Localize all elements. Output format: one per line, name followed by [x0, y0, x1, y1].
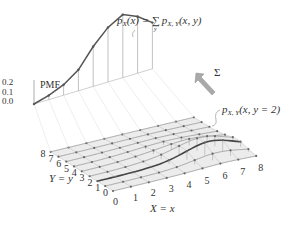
x-axis-label: X = x: [149, 202, 175, 214]
x-tick-1: 1: [133, 192, 138, 203]
sigma-label: Σ: [214, 66, 220, 78]
sum-arrow-icon: [195, 73, 215, 95]
x-tick-2: 2: [151, 187, 156, 198]
pmf-tick-0.0: 0.0: [2, 96, 14, 106]
marginal-formula: pX(x) = ∑pX, Y(x, y): [116, 14, 202, 28]
slice-formula: pX, Y(x, y = 2): [221, 103, 281, 117]
y-tick-7: 7: [48, 153, 53, 164]
x-tick-5: 5: [205, 175, 210, 186]
x-tick-6: 6: [222, 170, 227, 181]
y-tick-2: 2: [87, 177, 92, 188]
y-axis-label: Y = y: [49, 172, 73, 184]
sum-subscript: y: [153, 26, 157, 32]
x-tick-7: 7: [240, 166, 245, 177]
y-tick-1: 1: [95, 182, 100, 193]
marginal-leader-line: [132, 30, 135, 37]
pmf-axis-label: PMF: [40, 79, 60, 90]
x-tick-4: 4: [187, 179, 192, 190]
joint-pmf-surface: PMF0.20.10.0pX(x) = ∑pX, Y(x, y)yΣpX, Y(…: [0, 0, 295, 226]
x-tick-0: 0: [113, 196, 118, 207]
slice-leader-line: [212, 110, 220, 126]
pmf-tick-0.2: 0.2: [2, 77, 13, 87]
pmf-diagram: PMF0.20.10.0pX(x) = ∑pX, Y(x, y)yΣpX, Y(…: [0, 0, 295, 226]
y-tick-0: 0: [103, 187, 108, 198]
y-tick-6: 6: [56, 158, 61, 169]
x-tick-8: 8: [258, 162, 263, 173]
y-tick-3: 3: [80, 172, 85, 183]
y-tick-8: 8: [41, 148, 46, 159]
x-tick-3: 3: [169, 183, 174, 194]
